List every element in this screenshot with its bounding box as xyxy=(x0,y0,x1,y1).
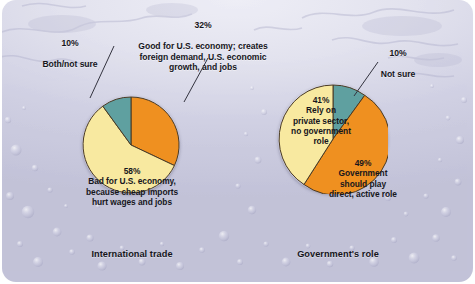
caption-governments-role: Government's role xyxy=(268,249,408,259)
label-private-sector: 41% Rely on private sector, no governmen… xyxy=(272,85,370,146)
label-not-sure: 10% Not sure xyxy=(358,38,438,80)
label-private-sector-pct: 41% xyxy=(313,95,330,105)
label-bad-for-economy-pct: 58% xyxy=(124,166,141,176)
label-private-sector-text: Rely on private sector, no government ro… xyxy=(291,105,351,146)
label-government-active-role-text: Government should play direct, active ro… xyxy=(329,168,397,198)
label-government-active-role-pct: 49% xyxy=(355,158,372,168)
label-good-for-economy-text: Good for U.S. economy; creates foreign d… xyxy=(138,41,267,72)
label-good-for-economy: 32% Good for U.S. economy; creates forei… xyxy=(118,10,288,72)
label-both-not-sure-text: Both/not sure xyxy=(42,59,97,69)
infographic-figure: 10% Both/not sure 32% Good for U.S. econ… xyxy=(0,0,475,284)
caption-international-trade: International trade xyxy=(62,249,202,259)
label-good-for-economy-pct: 32% xyxy=(118,20,288,30)
label-both-not-sure: 10% Both/not sure xyxy=(28,28,112,70)
label-bad-for-economy-text: Bad for U.S. economy, because cheap impo… xyxy=(86,176,178,206)
label-not-sure-text: Not sure xyxy=(381,69,415,79)
label-not-sure-pct: 10% xyxy=(358,48,438,58)
label-both-not-sure-pct: 10% xyxy=(28,38,112,48)
label-government-active-role: 49% Government should play direct, activ… xyxy=(308,148,418,199)
label-bad-for-economy: 58% Bad for U.S. economy, because cheap … xyxy=(42,156,222,207)
